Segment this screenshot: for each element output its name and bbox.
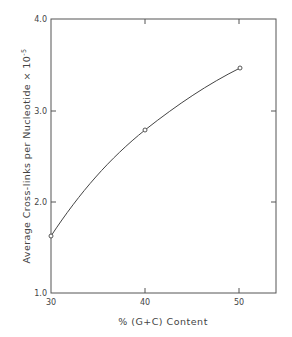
y-tick-label: 4.0 (34, 15, 47, 24)
y-axis-label: Average Cross-links per Nucleotide × 10-… (20, 49, 32, 264)
x-tick-labels: 30 40 50 (46, 298, 244, 307)
x-tick-label: 30 (46, 298, 56, 307)
y-tick-label: 2.0 (34, 198, 47, 207)
y-axis-label-exponent: -5 (20, 49, 28, 56)
plot-frame (51, 19, 276, 293)
data-line (51, 68, 240, 236)
data-markers (49, 66, 242, 238)
x-axis-label: % (G+C) Content (118, 316, 208, 327)
data-point (238, 66, 242, 70)
x-tick-label: 50 (234, 298, 244, 307)
x-ticks (145, 19, 239, 293)
data-point (143, 128, 147, 132)
y-tick-labels: 4.0 3.0 2.0 1.0 (34, 15, 47, 298)
y-tick-label: 3.0 (34, 107, 47, 116)
x-tick-label: 40 (140, 298, 150, 307)
chart: 4.0 3.0 2.0 1.0 30 40 50 % (G+C) Content… (0, 0, 292, 337)
y-ticks (51, 111, 276, 202)
y-tick-label: 1.0 (34, 289, 47, 298)
data-point (49, 234, 53, 238)
